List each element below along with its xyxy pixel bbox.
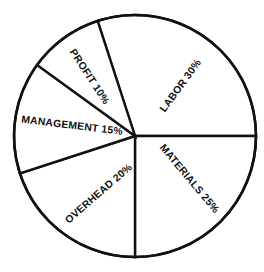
pie-chart-svg: LABOR 30%MATERIALS 25%OVERHEAD 20%MANAGE… [0, 0, 264, 272]
pie-slice-materials[interactable] [135, 136, 256, 257]
pie-chart-figure: LABOR 30%MATERIALS 25%OVERHEAD 20%MANAGE… [0, 0, 264, 272]
